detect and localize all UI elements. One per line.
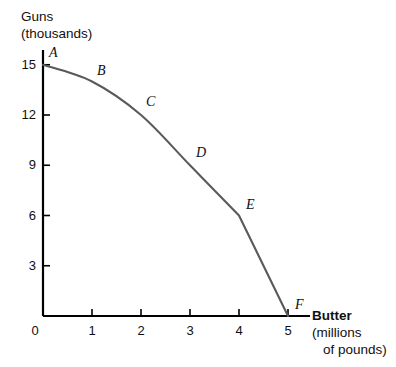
x-axis-title-line1: Butter [312,308,352,323]
x-axis-title-line3: of pounds) [312,341,387,358]
x-axis-title: Butter(millionsof pounds) [312,307,387,358]
y-axis-title: Guns(thousands) [21,8,92,42]
y-tick-label-12: 12 [10,107,36,122]
point-label-B: B [97,63,106,79]
point-label-D: D [196,145,206,161]
production-possibilities-curve [43,65,288,316]
x-tick-label-1: 1 [80,323,104,338]
ppf-chart-figure: Guns(thousands) Butter(millionsof pounds… [0,0,396,367]
y-tick-label-15: 15 [10,57,36,72]
point-label-F: F [295,297,304,313]
x-tick-label-4: 4 [227,323,251,338]
x-axis-title-line2: (millions [312,325,362,340]
y-tick-label-3: 3 [10,258,36,273]
x-tick-label-2: 2 [129,323,153,338]
y-axis-title-line1: Guns [21,9,53,24]
point-label-C: C [146,94,155,110]
point-label-A: A [49,45,58,61]
point-label-E: E [246,197,255,213]
y-axis-title-line2: (thousands) [21,26,92,41]
y-tick-label-9: 9 [10,157,36,172]
y-tick-label-6: 6 [10,208,36,223]
x-tick-label-3: 3 [178,323,202,338]
x-tick-label-5: 5 [276,323,300,338]
x-tick-label-0: 0 [23,323,47,338]
